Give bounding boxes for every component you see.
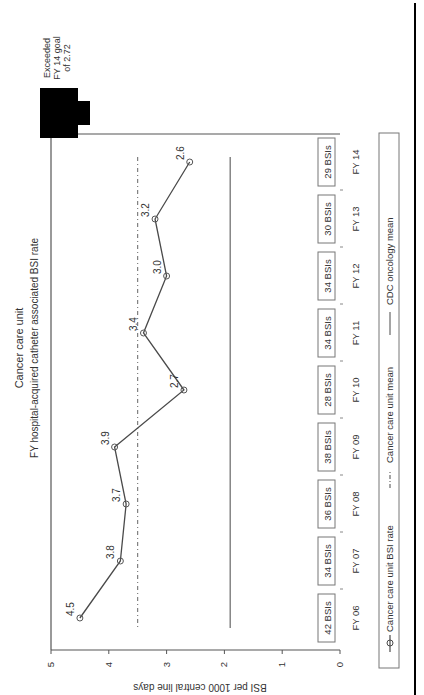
bsi-count-label: 34 BSIs [322,259,333,293]
bsi-count-label: 42 BSIs [322,601,333,635]
data-label: 2.6 [175,146,186,160]
data-label: 4.5 [65,602,76,616]
y-tick-label: 0 [334,662,345,667]
legend-entry-unit-mean: Cancer care unit mean [384,367,395,488]
down-arrow-icon [40,88,90,138]
data-label: 3.9 [100,431,111,445]
legend-entry-rate: Cancer care unit BSI rate [384,525,395,652]
y-tick-label: 3 [161,662,172,667]
bsi-rate-line: 4.53.83.73.92.73.43.03.22.6 [65,146,193,621]
bsi-count-label: 30 BSIs [322,202,333,236]
chart-titles: Cancer care unit FY hospital-acquired ca… [13,238,40,458]
legend-label-unit-mean: Cancer care unit mean [384,367,395,463]
legend: Cancer care unit BSI rate Cancer care un… [379,133,399,668]
plot-frame [51,134,340,650]
goal-annotation: Exceeded FY 14 goal of 2.72 [40,36,90,138]
legend-entry-cdc-mean: CDC oncology mean [384,217,395,335]
data-label: 3.2 [140,203,151,217]
legend-label-rate: Cancer care unit BSI rate [384,525,395,632]
y-tick-label: 5 [45,662,56,667]
fy-label: FY 14 [350,149,361,174]
y-axis-label: BSI per 1000 central line days [133,682,266,693]
fy-label: FY 06 [350,605,361,630]
bsi-count-label: 29 BSIs [322,145,333,179]
chart-title: Cancer care unit [13,308,25,389]
data-label: 3.8 [105,545,116,559]
chart-subtitle: FY hospital-acquired catheter associated… [29,238,40,458]
fy-label: FY 09 [350,434,361,459]
bsi-count-boxes: 42 BSIs34 BSIs36 BSIs38 BSIs28 BSIs34 BS… [318,138,343,642]
fy-label: FY 07 [350,548,361,573]
bsi-count-label: 36 BSIs [322,487,333,521]
fy-category-labels: FY 06FY 07FY 08FY 09FY 10FY 11FY 12FY 13… [350,149,361,630]
y-tick-label: 4 [103,662,114,667]
bsi-count-label: 28 BSIs [322,373,333,407]
data-label: 2.7 [169,374,180,388]
bsi-rate-chart: Cancer care unit FY hospital-acquired ca… [0,0,424,695]
data-label: 3.7 [111,488,122,502]
annotation-line-2: FY 14 goal [52,36,62,79]
data-label: 3.0 [152,260,163,274]
legend-label-cdc-mean: CDC oncology mean [384,217,395,305]
y-axis: 012345 [45,650,345,667]
bsi-count-label: 34 BSIs [322,544,333,578]
annotation-line-1: Exceeded [42,38,52,78]
data-label: 3.4 [128,317,139,331]
y-tick-label: 2 [218,662,229,667]
bsi-count-label: 38 BSIs [322,430,333,464]
annotation-line-3: of 2.72 [62,44,72,72]
fy-label: FY 13 [350,206,361,231]
fy-label: FY 08 [350,491,361,516]
fy-label: FY 12 [350,263,361,288]
fy-label: FY 10 [350,377,361,402]
bsi-count-label: 34 BSIs [322,316,333,350]
fy-label: FY 11 [350,321,361,345]
y-tick-label: 1 [276,662,287,667]
